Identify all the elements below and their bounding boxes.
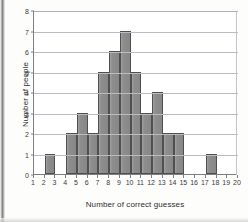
x-axis-tick-mark-5	[76, 175, 77, 178]
x-axis-tick-mark-11	[140, 175, 141, 178]
y-axis-tick-label-3: 3	[25, 110, 29, 117]
x-axis-tick-label-17: 17	[201, 179, 209, 186]
x-axis-tick-label-16: 16	[190, 179, 198, 186]
x-axis-tick-label-6: 6	[85, 179, 89, 186]
y-axis-label-container: Number of people	[14, 30, 26, 140]
gridline-y-4	[34, 93, 238, 94]
x-axis-tick-label-9: 9	[117, 179, 121, 186]
x-axis-tick-label-7: 7	[95, 179, 99, 186]
bar-12-13	[152, 92, 163, 174]
gridline-y-1	[34, 155, 238, 156]
x-axis-tick-mark-4	[65, 175, 66, 178]
x-axis-tick-mark-12	[151, 175, 152, 178]
x-axis-tick-label-11: 11	[137, 179, 144, 186]
y-axis-tick-label-6: 6	[25, 49, 29, 56]
x-axis-tick-label-4: 4	[63, 179, 67, 186]
y-axis-tick-mark-8	[31, 11, 34, 12]
bar-5-6	[77, 113, 88, 175]
y-axis-tick-mark-2	[31, 134, 34, 135]
y-axis-tick-label-4: 4	[25, 90, 29, 97]
x-axis-tick-label-20: 20	[233, 179, 241, 186]
x-axis-tick-mark-14	[173, 175, 174, 178]
x-axis-tick-label-10: 10	[126, 179, 134, 186]
histogram-figure: Number of people 012345678 1234567891011…	[0, 0, 248, 222]
x-axis-tick-mark-9	[119, 175, 120, 178]
x-axis-tick-label-13: 13	[158, 179, 166, 186]
y-axis-tick-label-5: 5	[25, 69, 29, 76]
x-axis-tick-mark-13	[162, 175, 163, 178]
bar-17-18	[206, 154, 217, 175]
x-axis-tick-label-15: 15	[179, 179, 187, 186]
x-axis-label: Number of correct guesses	[33, 200, 237, 209]
x-axis-tick-mark-15	[183, 175, 184, 178]
x-axis-tick-mark-10	[130, 175, 131, 178]
x-axis-tick-mark-20	[237, 175, 238, 178]
x-axis: 1234567891011121314151617181920	[33, 175, 237, 191]
x-axis-tick-mark-18	[216, 175, 217, 178]
bar-8-9	[109, 51, 120, 174]
y-axis-tick-label-7: 7	[25, 28, 29, 35]
gridline-y-2	[34, 134, 238, 135]
x-axis-tick-mark-6	[87, 175, 88, 178]
plot-area: 012345678	[33, 11, 237, 175]
gridline-y-6	[34, 52, 238, 53]
bar-4-5	[66, 133, 77, 174]
x-axis-tick-mark-7	[97, 175, 98, 178]
bar-7-8	[98, 72, 109, 175]
gridline-y-5	[34, 73, 238, 74]
x-axis-tick-label-8: 8	[106, 179, 110, 186]
x-axis-tick-label-14: 14	[169, 179, 177, 186]
gridline-y-7	[34, 32, 238, 33]
bar-14-15	[174, 133, 185, 174]
y-axis-tick-label-2: 2	[25, 131, 29, 138]
y-axis-tick-label-0: 0	[25, 172, 29, 179]
scan-artifact-bottom-edge	[0, 218, 248, 222]
y-axis-tick-mark-3	[31, 113, 34, 114]
x-axis-tick-label-3: 3	[53, 179, 57, 186]
y-axis-tick-mark-7	[31, 31, 34, 32]
x-axis-tick-mark-1	[33, 175, 34, 178]
x-axis-tick-label-18: 18	[212, 179, 220, 186]
bar-6-7	[88, 133, 99, 174]
x-axis-tick-mark-17	[205, 175, 206, 178]
x-axis-tick-label-1: 1	[31, 179, 35, 186]
x-axis-tick-mark-2	[44, 175, 45, 178]
y-axis-tick-mark-4	[31, 93, 34, 94]
y-axis-tick-mark-5	[31, 72, 34, 73]
x-axis-tick-label-2: 2	[42, 179, 46, 186]
bar-2-3	[45, 154, 56, 175]
x-axis-tick-mark-16	[194, 175, 195, 178]
x-axis-tick-mark-3	[54, 175, 55, 178]
x-axis-tick-mark-8	[108, 175, 109, 178]
bar-11-12	[141, 113, 152, 175]
y-axis-tick-label-1: 1	[25, 151, 29, 158]
y-axis-tick-label-8: 8	[25, 8, 29, 15]
x-axis-tick-mark-19	[226, 175, 227, 178]
x-axis-tick-label-12: 12	[147, 179, 155, 186]
y-axis-tick-mark-1	[31, 154, 34, 155]
x-axis-tick-label-5: 5	[74, 179, 78, 186]
bar-series	[34, 10, 238, 174]
gridline-y-3	[34, 114, 238, 115]
scan-artifact-left-edge	[0, 0, 5, 222]
bar-13-14	[163, 133, 174, 174]
y-axis-tick-mark-6	[31, 52, 34, 53]
bar-10-11	[131, 72, 142, 175]
x-axis-tick-label-19: 19	[222, 179, 230, 186]
gridline-y-8	[34, 11, 238, 12]
